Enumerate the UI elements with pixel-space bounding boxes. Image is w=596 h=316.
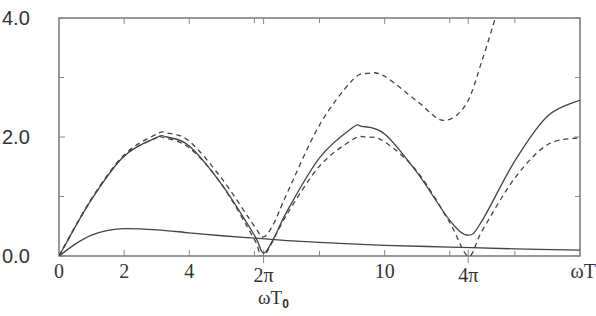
x-tick-label: 0 [54, 260, 64, 282]
x-tick-label: 2π [254, 264, 274, 286]
y-tick-label: 4.0 [2, 7, 30, 29]
series-dashed-periodic [59, 135, 580, 257]
x-tick-label: 4 [184, 260, 194, 282]
x-axis-title: ωT0 [258, 287, 289, 311]
x-tick-label: 4π [458, 264, 478, 286]
x-tick-label: 2 [119, 260, 129, 282]
y-tick-label: 2.0 [2, 126, 30, 148]
y-tick-label: 0.0 [2, 245, 30, 267]
series-dashed-growing [59, 18, 495, 256]
y-axis-tick-labels: 0.02.04.0 [2, 7, 30, 267]
axis-ticks [59, 18, 580, 263]
x-tick-label: 10 [375, 260, 395, 282]
x-axis-tick-labels: 0242π104πωT [54, 260, 596, 286]
x-tick-label: ωT [571, 260, 596, 282]
chart: 0.02.04.0 0242π104πωT ωT0 [0, 0, 596, 316]
plot-curves [59, 18, 580, 257]
series-solid-oscillating [59, 100, 580, 256]
plot-frame [59, 18, 580, 256]
